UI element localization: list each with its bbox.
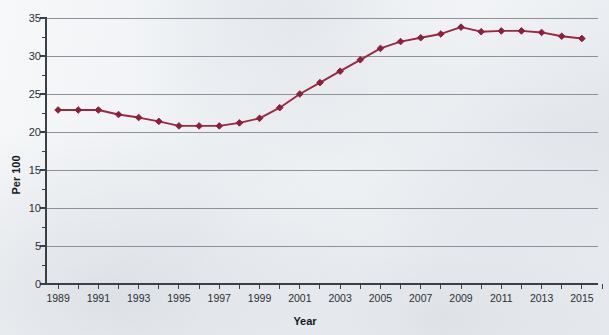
data-point-2009 <box>458 24 465 31</box>
data-point-1997 <box>216 123 223 130</box>
data-point-1998 <box>236 120 243 127</box>
data-point-1990 <box>75 107 82 114</box>
data-point-2006 <box>397 38 404 45</box>
data-point-1991 <box>95 107 102 114</box>
data-point-1993 <box>135 114 142 121</box>
data-point-1999 <box>256 115 263 122</box>
data-point-1989 <box>55 107 62 114</box>
data-point-2012 <box>518 28 525 35</box>
data-point-2011 <box>498 28 505 35</box>
chart-canvas <box>0 0 609 335</box>
data-point-2013 <box>538 29 545 36</box>
data-point-2014 <box>558 33 565 40</box>
line-chart: 35 30 25 20 15 10 5 0 Per 100 Year 19891… <box>0 0 609 335</box>
data-point-2008 <box>438 31 445 38</box>
data-point-2010 <box>478 28 485 35</box>
data-point-1996 <box>196 123 203 130</box>
data-line <box>58 27 582 126</box>
data-point-2015 <box>579 35 586 42</box>
data-point-1995 <box>176 123 183 130</box>
data-point-2007 <box>417 34 424 41</box>
data-point-1992 <box>115 111 122 118</box>
data-point-1994 <box>156 118 163 125</box>
